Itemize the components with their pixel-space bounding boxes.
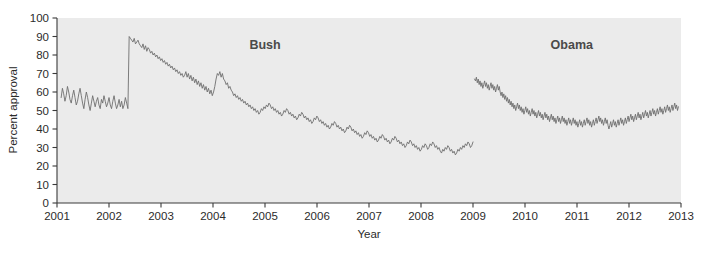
y-tick-label: 10 (36, 179, 49, 191)
y-tick-label: 20 (36, 160, 49, 172)
y-tick-label: 100 (30, 12, 49, 24)
x-tick-label: 2005 (252, 210, 278, 222)
y-tick-label: 80 (36, 49, 49, 61)
y-tick-label: 90 (36, 31, 49, 43)
x-tick-label: 2011 (565, 210, 590, 222)
x-axis-title: Year (357, 228, 380, 240)
x-tick-label: 2013 (668, 210, 694, 222)
x-tick-label: 2009 (460, 210, 486, 222)
approval-rating-chart-figure: 0102030405060708090100 20012002200320042… (0, 0, 702, 254)
y-tick-label: 50 (36, 105, 49, 117)
x-tick-label: 2001 (44, 210, 70, 222)
x-tick-label: 2006 (304, 210, 330, 222)
series-annotation-obama: Obama (551, 38, 594, 52)
y-tick-label: 40 (36, 123, 49, 135)
x-tick-label: 2004 (200, 210, 226, 222)
x-tick-label: 2002 (96, 210, 122, 222)
x-tick-label: 2007 (356, 210, 382, 222)
x-tick-label: 2010 (512, 210, 538, 222)
series-annotation-bush: Bush (249, 38, 280, 52)
y-tick-label: 0 (43, 197, 49, 209)
y-axis-title: Percent approval (7, 67, 19, 154)
y-tick-label: 60 (36, 86, 49, 98)
chart-canvas: 0102030405060708090100 20012002200320042… (0, 0, 702, 254)
x-tick-label: 2008 (408, 210, 434, 222)
x-tick-label: 2012 (616, 210, 642, 222)
x-tick-label: 2003 (148, 210, 174, 222)
y-tick-label: 30 (36, 142, 49, 154)
y-tick-label: 70 (36, 68, 49, 80)
